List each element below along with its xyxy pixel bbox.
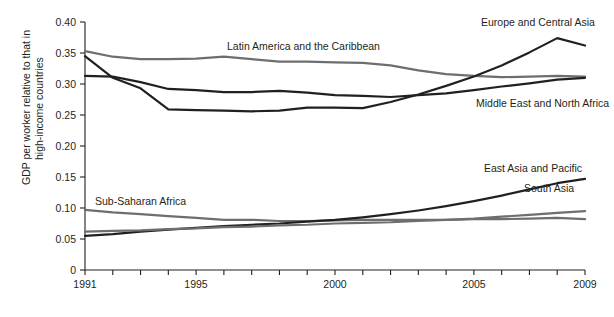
x-axis-tick-labels: 1991 1995 2000 2005 2009 [73, 278, 597, 290]
y-tick-label-015: 0.15 [56, 171, 77, 183]
series-line-latin-america-and-the-caribbean [85, 51, 585, 77]
series-label-latin-america-and-the-caribbean: Latin America and the Caribbean [227, 40, 380, 52]
series-label-middle-east-and-north-africa: Middle East and North Africa [476, 97, 609, 109]
y-tick-label-035: 0.35 [56, 47, 77, 59]
x-tick-label-2005: 2005 [462, 278, 486, 290]
series-line-east-asia-and-pacific [85, 179, 585, 236]
y-tick-label-010: 0.10 [56, 202, 77, 214]
x-axis: 1991 1995 2000 2005 2009 [73, 270, 597, 290]
y-tick-label-030: 0.30 [56, 78, 77, 90]
chart-container: GDP per worker relative to that in high-… [0, 0, 614, 317]
series-label-europe-and-central-asia: Europe and Central Asia [481, 16, 595, 28]
x-tick-label-2000: 2000 [323, 278, 347, 290]
y-axis-tick-labels: 0.40 0.35 0.30 0.25 0.20 0.15 0.10 0.05 … [56, 16, 77, 276]
x-axis-ticks [85, 270, 585, 275]
y-axis-title-line1: GDP per worker relative to that in [20, 30, 32, 185]
y-axis-title-line2: high-income countries [33, 57, 45, 160]
y-axis-ticks [80, 22, 85, 270]
series-label-south-asia: South Asia [524, 182, 574, 194]
x-tick-label-2009: 2009 [573, 278, 597, 290]
y-tick-label-020: 0.20 [56, 140, 77, 152]
y-tick-label-000: 0 [70, 264, 76, 276]
y-tick-label-025: 0.25 [56, 109, 77, 121]
x-tick-label-1991: 1991 [73, 278, 97, 290]
series-label-sub-saharan-africa: Sub-Saharan Africa [95, 195, 186, 207]
series-label-east-asia-and-pacific: East Asia and Pacific [484, 162, 582, 174]
series-line-middle-east-and-north-africa [85, 76, 585, 97]
line-chart-svg: GDP per worker relative to that in high-… [0, 0, 614, 317]
y-tick-label-040: 0.40 [56, 16, 77, 28]
y-tick-label-005: 0.05 [56, 233, 77, 245]
x-tick-label-1995: 1995 [184, 278, 208, 290]
y-axis-title-group: GDP per worker relative to that in high-… [20, 30, 45, 185]
series-labels-group: Latin America and the CaribbeanEurope an… [95, 16, 609, 207]
y-axis: 0.40 0.35 0.30 0.25 0.20 0.15 0.10 0.05 … [56, 16, 85, 276]
